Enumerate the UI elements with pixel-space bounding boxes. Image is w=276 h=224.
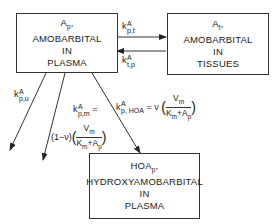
plasma-location: PLASMA xyxy=(47,57,87,69)
tissues-name: AMOBARBITAL xyxy=(183,34,252,46)
metabolite-name: HYDROXYAMOBARBITAL xyxy=(86,176,203,188)
plasma-name: AMOBARBITAL xyxy=(32,33,101,45)
plasma-in: IN xyxy=(62,45,72,57)
rate-label-k-pu: kAp,u xyxy=(14,88,29,102)
rate-expression-k-phoa: kAp, HOA = ν (VmKm+Ap) xyxy=(116,93,196,121)
tissues-symbol: At, xyxy=(212,18,223,34)
rate-label-k-pt: kAp,t xyxy=(122,20,135,34)
tissues-compartment-box: At, AMOBARBITAL IN TISSUES xyxy=(167,13,269,75)
rate-label-k-pm: kAp,m = xyxy=(73,103,97,117)
tissues-location: TISSUES xyxy=(197,58,239,70)
tissues-in: IN xyxy=(213,46,223,58)
rate-label-k-tp: kAt,p xyxy=(122,54,135,68)
metabolite-in: IN xyxy=(140,188,150,200)
rate-expression-k-pm: (1−ν)(VmKm+Ap) xyxy=(51,123,106,151)
metabolite-symbol: HOAp, xyxy=(131,160,159,176)
metabolite-location: PLASMA xyxy=(125,200,165,212)
metabolite-compartment-box: HOAp, HYDROXYAMOBARBITAL IN PLASMA xyxy=(89,153,200,219)
plasma-compartment-box: Ap, AMOBARBITAL IN PLASMA xyxy=(16,13,118,73)
plasma-symbol: Ap, xyxy=(60,17,73,33)
arrow-plasma-elimination xyxy=(10,73,46,150)
